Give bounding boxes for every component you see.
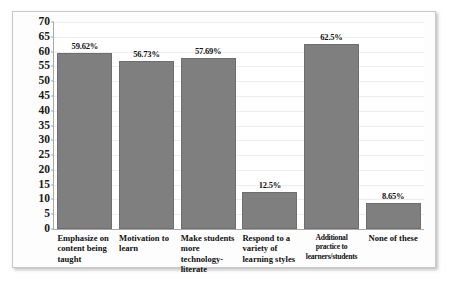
- bar: 8.65%: [366, 203, 421, 229]
- y-axis-tick-mark: [51, 95, 54, 96]
- y-axis-tick-mark: [51, 140, 54, 141]
- y-axis-tick-mark: [51, 184, 54, 185]
- bar: 12.5%: [242, 192, 297, 229]
- x-axis-category-label: Respond to a variety of learning styles: [242, 233, 297, 264]
- y-axis-tick-mark: [51, 66, 54, 67]
- bar-value-label: 12.5%: [259, 180, 281, 190]
- bar-value-label: 56.73%: [133, 49, 159, 59]
- gridline: [54, 22, 424, 23]
- bar: 57.69%: [181, 58, 236, 229]
- x-axis-category-label: Additional practice to learners/students: [304, 233, 359, 261]
- x-axis-category-label: None of these: [366, 233, 421, 243]
- bar: 56.73%: [119, 61, 174, 229]
- bar-chart: 0510152025303540455055606570 59.62%56.73…: [0, 0, 451, 286]
- gridline: [54, 37, 424, 38]
- y-axis-tick-mark: [51, 22, 54, 23]
- y-axis-tick-mark: [51, 81, 54, 82]
- x-axis-category-label: Motivation to learn: [119, 233, 174, 254]
- x-axis-category-label: Make students more technology-literate: [181, 233, 236, 275]
- bar-value-label: 57.69%: [195, 46, 221, 56]
- y-axis-tick-mark: [51, 36, 54, 37]
- bar-value-label: 8.65%: [382, 191, 404, 201]
- plot-area: 0510152025303540455055606570 59.62%56.73…: [53, 22, 424, 230]
- bar-value-label: 59.62%: [72, 41, 98, 51]
- x-axis-category-label: Emphasize on content being taught: [57, 233, 112, 264]
- y-axis-tick-mark: [51, 229, 54, 230]
- y-axis-tick-mark: [51, 110, 54, 111]
- y-axis-tick-mark: [51, 214, 54, 215]
- bar: 62.5%: [304, 44, 359, 229]
- bar-value-label: 62.5%: [320, 32, 342, 42]
- chart-frame: 0510152025303540455055606570 59.62%56.73…: [12, 11, 436, 268]
- y-axis-tick-mark: [51, 155, 54, 156]
- y-axis-tick-mark: [51, 125, 54, 126]
- y-axis-tick-mark: [51, 199, 54, 200]
- y-axis-tick-mark: [51, 169, 54, 170]
- y-axis-tick-mark: [51, 51, 54, 52]
- bar: 59.62%: [57, 53, 112, 229]
